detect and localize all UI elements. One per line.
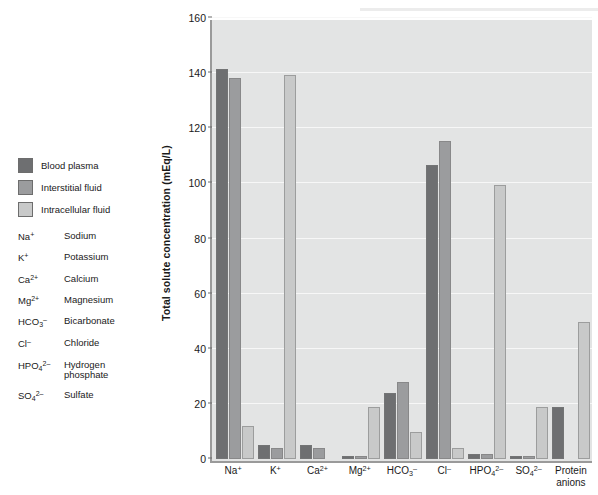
bar [284, 75, 296, 459]
bar [410, 432, 422, 459]
y-tick-label: 160 [188, 12, 206, 24]
bar [258, 445, 270, 459]
legend-item-label: Blood plasma [41, 160, 99, 171]
x-tick-label: Ca2+ [296, 465, 338, 489]
x-tick-label: HCO3– [381, 465, 423, 489]
bar [242, 426, 254, 459]
bar [216, 69, 228, 459]
abbreviation-name: Bicarbonate [64, 316, 158, 327]
bar-group [256, 20, 298, 459]
bar [578, 322, 590, 459]
y-axis-title: Total solute concentration (mEq/L) [158, 8, 174, 458]
abbreviation-name: Hydrogenphosphate [64, 360, 158, 381]
abbreviation-row: HCO3–Bicarbonate [18, 316, 158, 329]
abbreviation-name: Magnesium [64, 295, 158, 306]
bar-group [340, 20, 382, 459]
y-tick-label: 20 [194, 398, 206, 410]
bar [397, 382, 409, 459]
abbreviation-symbol: SO42– [18, 390, 64, 403]
bar-group [382, 20, 424, 459]
bar [355, 456, 367, 459]
bar-group [508, 20, 550, 459]
abbreviation-symbol: Cl– [18, 338, 64, 350]
y-tick-label: 60 [194, 288, 206, 300]
y-tick-label: 120 [188, 122, 206, 134]
bar [342, 456, 354, 459]
abbreviation-row: K+Potassium [18, 252, 158, 264]
abbreviation-row: Ca2+Calcium [18, 274, 158, 286]
bar-group [214, 20, 256, 459]
abbreviation-symbol: Mg2+ [18, 295, 64, 307]
abbreviation-row: SO42–Sulfate [18, 390, 158, 403]
y-tick-mark [208, 17, 212, 18]
abbreviation-symbol: Ca2+ [18, 274, 64, 286]
abbreviation-row: HPO42–Hydrogenphosphate [18, 360, 158, 381]
abbreviation-name: Chloride [64, 338, 158, 349]
bar [384, 393, 396, 459]
plot-wrap: 020406080100120140160 [210, 20, 592, 463]
y-tick-mark [208, 292, 212, 293]
legend-item-label: Interstitial fluid [41, 182, 102, 193]
bar [510, 456, 522, 459]
bar-group [466, 20, 508, 459]
legend-swatch-icon [18, 180, 33, 195]
abbreviation-name: Sodium [64, 231, 158, 242]
x-tick-label: Na+ [212, 465, 254, 489]
abbreviation-symbol: Na+ [18, 231, 64, 243]
bar-group [298, 20, 340, 459]
bar [552, 407, 564, 459]
bar [439, 141, 451, 459]
abbreviation-row: Mg2+Magnesium [18, 295, 158, 307]
y-tick-label: 0 [200, 453, 206, 465]
x-tick-label: Cl– [423, 465, 465, 489]
y-tick-label: 100 [188, 177, 206, 189]
bars-layer [214, 20, 592, 459]
abbreviation-name: Sulfate [64, 390, 158, 401]
y-tick-label: 140 [188, 67, 206, 79]
scan-artifact [360, 8, 598, 11]
bar [313, 448, 325, 459]
legend-item-label: Intracellular fluid [41, 204, 110, 215]
x-tick-label: K+ [254, 465, 296, 489]
y-tick-mark [208, 347, 212, 348]
abbreviation-key-list: Na+SodiumK+PotassiumCa2+CalciumMg2+Magne… [18, 231, 158, 403]
legend-panel: Blood plasmaInterstitial fluidIntracellu… [18, 158, 158, 413]
bar [368, 407, 380, 459]
abbreviation-row: Cl–Chloride [18, 338, 158, 350]
y-tick-mark [208, 127, 212, 128]
bar [426, 165, 438, 459]
bar [271, 448, 283, 459]
bar-group [550, 20, 592, 459]
x-tick-label: Proteinanions [550, 465, 592, 489]
y-tick-mark [208, 458, 212, 459]
bar [523, 456, 535, 459]
abbreviation-symbol: HPO42– [18, 360, 64, 373]
abbreviation-name: Potassium [64, 252, 158, 263]
x-tick-label: SO42– [508, 465, 550, 489]
abbreviation-symbol: HCO3– [18, 316, 64, 329]
bar [494, 185, 506, 459]
legend-item: Blood plasma [18, 158, 158, 173]
abbreviation-symbol: K+ [18, 252, 64, 264]
legend-item: Interstitial fluid [18, 180, 158, 195]
x-tick-label: Mg2+ [339, 465, 381, 489]
y-tick-label: 40 [194, 343, 206, 355]
legend-swatch-icon [18, 158, 33, 173]
chart-region: Total solute concentration (mEq/L) 02040… [160, 8, 592, 490]
bar-group [424, 20, 466, 459]
legend-swatch-icon [18, 202, 33, 217]
y-tick-label: 80 [194, 233, 206, 245]
legend-swatch-list: Blood plasmaInterstitial fluidIntracellu… [18, 158, 158, 217]
y-tick-mark [208, 402, 212, 403]
y-axis-title-text: Total solute concentration (mEq/L) [160, 145, 172, 321]
bar [452, 448, 464, 459]
bar [481, 454, 493, 459]
gridline [212, 17, 592, 18]
abbreviation-name: Calcium [64, 274, 158, 285]
abbreviation-row: Na+Sodium [18, 231, 158, 243]
x-axis-labels: Na+K+Ca2+Mg2+HCO3–Cl–HPO42–SO42–Proteina… [212, 465, 592, 489]
x-tick-label: HPO42– [465, 465, 507, 489]
bar [468, 454, 480, 459]
bar [229, 78, 241, 459]
plot-area: 020406080100120140160 [210, 20, 592, 463]
